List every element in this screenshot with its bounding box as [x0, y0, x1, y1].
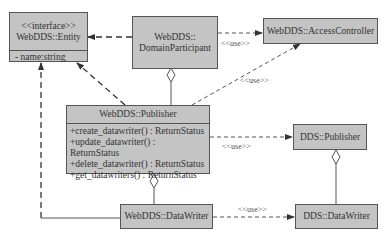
aggregation-diamond-dp — [167, 68, 175, 82]
entity-stereotype: <<interface>> — [21, 21, 76, 32]
aggregation-diamond-ddspub — [332, 150, 340, 164]
method-get-datawriters: +get_datawriters() : ReturnStatus — [70, 170, 206, 181]
use-label-dp-ac: <<use>> — [221, 39, 250, 48]
class-domain-participant[interactable]: WebDDS:: DomainParticipant — [132, 16, 218, 69]
method-delete-datawriter: +delete_datawriter() : ReturnStatus — [70, 159, 206, 170]
ac-name: WebDDS::AccessController — [267, 26, 374, 37]
entity-attribute: - name:string — [15, 52, 65, 62]
method-create-datawriter: +create_datawriter() : ReturnStatus — [70, 126, 206, 137]
method-update-datawriter: +update_datawriter() : ReturnStatus — [70, 137, 206, 159]
class-webdds-datawriter[interactable]: WebDDS::DataWriter — [120, 204, 213, 229]
dp-name-line2: DomainParticipant — [139, 43, 211, 54]
use-label-dw-ddsdw: <<use>> — [238, 205, 267, 214]
class-dds-datawriter[interactable]: DDS::DataWriter — [295, 204, 378, 229]
pub-entity-dashed — [77, 63, 125, 105]
class-publisher[interactable]: WebDDS::Publisher +create_datawriter() :… — [66, 105, 210, 174]
class-access-controller[interactable]: WebDDS::AccessController — [263, 18, 378, 44]
dds-datawriter-name: DDS::DataWriter — [303, 211, 370, 222]
entity-name: WebDDS::Entity — [16, 32, 81, 43]
class-entity[interactable]: <<interface>> WebDDS::Entity - name:stri… — [9, 12, 88, 62]
use-label-pub-ddspub: <<use>> — [222, 142, 251, 151]
dp-name-line1: WebDDS:: — [154, 32, 195, 43]
publisher-name: WebDDS::Publisher — [99, 109, 176, 120]
dds-publisher-name: DDS::Publisher — [300, 132, 360, 143]
use-label-pub-ac: <<use>> — [240, 76, 269, 85]
class-dds-publisher[interactable]: DDS::Publisher — [293, 124, 367, 150]
webdds-datawriter-name: WebDDS::DataWriter — [125, 211, 209, 222]
